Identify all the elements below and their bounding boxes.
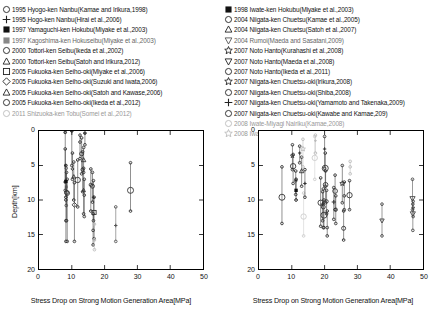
legend-item-label: 2007 Noto Hanto(Kurahashi et al.,2008) [234,47,343,54]
legend-item-label: 1998 Iwate-ken Hokubu(Miyake et al.,2003… [234,6,354,13]
legend-item: 2000 Tottori-ken Seibu(Satoh and Irikura… [2,56,222,66]
plus-icon [2,15,11,24]
square-filled-icon [2,25,11,34]
triangle-up-open-icon [224,25,233,34]
legend-item: 2007 Niigata-ken Chuetsu-oki(Kawabe and … [224,108,444,118]
legend-item-label: 2011 Shizuoka-ken Tobu(Somei et al.,2012… [12,110,132,117]
legend-item: 2007 Niigata-ken Chuetsu-oki(Yamamoto an… [224,98,444,108]
legend-item-label: 2005 Fukuoka-ken Seiho-oki(Suzuki and Iw… [12,78,157,85]
y-tick-label: 0 [233,126,255,133]
x-tick-label: 0 [28,273,48,280]
legend-item: 2005 Fukuoka-ken Seiho-oki(Suzuki and Iw… [2,77,222,87]
legend-item-label: 2000 Tottori-ken Seibu(Ikeda et al.,2002… [12,47,123,54]
circle-open-icon [2,46,11,55]
y-tick-label: 5 [13,161,35,168]
x-axis-title-right: Stress Drop on Strong Motion Generation … [222,296,444,305]
x-tick-label: 20 [314,273,334,280]
triangle-down-open-icon [224,57,233,66]
triangle-down-open-icon [224,36,233,45]
square-filled-icon [224,5,233,14]
x-axis-title-left: Stress Drop on Strong Motion Generation … [0,296,222,305]
legend-item: 2004 Rumoi(Maeda and Sasatani,2009) [224,35,444,45]
legend-item: 1995 Hyogo-ken Nanbu(Kamae and Irikura,1… [2,4,222,14]
data-point [294,189,297,192]
plot-area-left [38,130,204,270]
plot-area-right [258,130,424,270]
legend-item: 2007 Noto Hanto(Maeda et al.,2008) [224,56,444,66]
square-filled-icon [2,36,11,45]
legend: 1995 Hyogo-ken Nanbu(Kamae and Irikura,1… [0,4,444,112]
x-tick-label: 0 [248,273,268,280]
x-tick-label: 10 [281,273,301,280]
circle-open-icon [224,88,233,97]
legend-item-label: 2005 Fukuoka-ken Seiho-oki(Satoh and Kaw… [12,89,162,96]
circle-open-icon [2,98,11,107]
circle-open-icon [224,15,233,24]
data-point [65,186,68,189]
triangle-up-open-icon [2,57,11,66]
triangle-up-open-icon [2,88,11,97]
legend-item-label: 2004 Rumoi(Maeda and Sasatani,2009) [234,37,344,44]
scatter-svg-left [39,131,203,269]
x-tick-label: 30 [348,273,368,280]
data-point [303,182,306,185]
plus-icon [224,98,233,107]
y-tick-label: 20 [13,266,35,273]
y-tick-label: 15 [233,231,255,238]
x-tick-label: 10 [61,273,81,280]
legend-item: 2007 Noto Hanto(Kurahashi et al.,2008) [224,46,444,56]
figure-root: 1995 Hyogo-ken Nanbu(Kamae and Irikura,1… [0,0,444,323]
data-point [64,180,67,183]
star-open-icon [224,77,233,86]
legend-item-label: 1997 Yamaguchi-ken Hokubu(Miyake et al.,… [12,26,147,33]
legend-item-label: 2007 Noto Hanto(Ikeda et al.,2011) [234,68,330,75]
legend-item: 1997 Yamaguchi-ken Hokubu(Miyake et al.,… [2,25,222,35]
legend-item: 2007 Niigata-ken Chuetsu-oki(Shiba,2008) [224,87,444,97]
panel-left: Depth[km] Stress Drop on Strong Motion G… [0,120,222,320]
legend-item: 2005 Fukuoka-ken Seiho-oki(Ikeda et al.,… [2,98,222,108]
circle-open-icon [224,109,233,118]
square-open-icon [2,67,11,76]
legend-item: 1998 Iwate-ken Hokubu(Miyake et al.,2003… [224,4,444,14]
y-tick-label: 20 [233,266,255,273]
legend-item-label: 2004 Niigata-ken Chuetsu(Kamae et al.,20… [234,16,360,23]
x-tick-label: 50 [414,273,434,280]
y-tick-label: 0 [13,126,35,133]
legend-item: 2004 Niigata-ken Chuetsu(Satoh et al.,20… [224,25,444,35]
diamond-open-icon [2,77,11,86]
legend-column-right: 1998 Iwate-ken Hokubu(Miyake et al.,2003… [222,4,444,112]
legend-item-label: 2007 Niigata-ken Chuetsu-oki(Kawabe and … [234,110,387,117]
panel-right: Stress Drop on Strong Motion Generation … [222,120,444,320]
legend-item-label: 2007 Niigata-ken Chuetsu-oki(Shiba,2008) [234,89,351,96]
data-point [114,224,117,227]
circle-open-icon [2,109,11,118]
legend-item-label: 1995 Hogo-ken Nanbu(Hirai et al.,2006) [12,16,122,23]
legend-item-label: 2007 Niigata-ken Chuetsu-oki(Yamamoto an… [234,99,405,106]
legend-item-label: 2005 Fukuoka-ken Seiho-oki(Ikeda et al.,… [12,99,140,106]
legend-item: 1997 Kagoshima-ken Hokuseibu(Miyake et a… [2,35,222,45]
legend-item-label: 1995 Hyogo-ken Nanbu(Kamae and Irikura,1… [12,6,148,13]
y-tick-label: 5 [233,161,255,168]
circle-open-icon [224,67,233,76]
legend-item-label: 2007 Niigata-ken Chuetsu-oki(Irikura,200… [234,78,352,85]
legend-item: 1995 Hogo-ken Nanbu(Hirai et al.,2006) [2,14,222,24]
x-tick-label: 40 [381,273,401,280]
legend-item: 2005 Fukuoka-ken Seiho-oki(Satoh and Kaw… [2,87,222,97]
legend-item-label: 2004 Niigata-ken Chuetsu(Satoh et al.,20… [234,26,356,33]
x-tick-label: 20 [94,273,114,280]
legend-item: 2004 Niigata-ken Chuetsu(Kamae et al.,20… [224,14,444,24]
legend-item: 2011 Shizuoka-ken Tobu(Somei et al.,2012… [2,108,222,118]
legend-item-label: 2005 Fukuoka-ken Seiho-oki(Miyake et al.… [12,68,145,75]
x-tick-label: 40 [161,273,181,280]
legend-item-label: 1997 Kagoshima-ken Hokuseibu(Miyake et a… [12,37,156,44]
legend-item-label: 2000 Tottori-ken Seibu(Satoh and Irikura… [12,58,140,65]
x-tick-label: 50 [194,273,214,280]
y-tick-label: 15 [13,231,35,238]
data-point [323,147,326,150]
legend-item: 2005 Fukuoka-ken Seiho-oki(Miyake et al.… [2,66,222,76]
circle-open-icon [2,5,11,14]
y-tick-label: 10 [233,196,255,203]
legend-item: 2007 Noto Hanto(Ikeda et al.,2011) [224,66,444,76]
legend-item: 2007 Niigata-ken Chuetsu-oki(Irikura,200… [224,77,444,87]
x-tick-label: 30 [128,273,148,280]
